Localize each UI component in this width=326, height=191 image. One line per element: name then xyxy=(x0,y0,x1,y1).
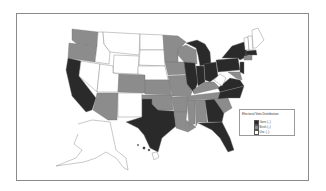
state-florida[interactable] xyxy=(198,122,234,152)
state-alabama[interactable] xyxy=(195,100,207,126)
state-alaska[interactable] xyxy=(56,120,128,170)
state-new-jersey[interactable] xyxy=(240,62,244,74)
state-massachusetts[interactable] xyxy=(246,50,257,55)
state-new-mexico[interactable] xyxy=(118,93,142,117)
state-arkansas[interactable] xyxy=(172,97,188,112)
state-south-dakota[interactable] xyxy=(139,50,165,66)
legend-label: Gore (..) xyxy=(260,120,271,124)
legend-row-bush: Bush (..) xyxy=(254,125,271,129)
state-colorado[interactable] xyxy=(118,74,145,93)
legend-label: Unc (..) xyxy=(260,130,270,134)
legend: Electoral Vote Distribution Gore (..) Bu… xyxy=(239,109,295,136)
state-kansas[interactable] xyxy=(145,80,171,95)
state-maine[interactable] xyxy=(252,28,264,48)
legend-title: Electoral Vote Distribution xyxy=(242,112,279,116)
legend-label: Bush (..) xyxy=(260,125,271,129)
state-washington[interactable] xyxy=(72,29,98,46)
state-connecticut[interactable] xyxy=(244,55,252,60)
state-north-dakota[interactable] xyxy=(140,34,164,50)
state-mississippi[interactable] xyxy=(187,100,195,125)
state-iowa[interactable] xyxy=(165,62,187,75)
legend-row-undecided: Unc (..) xyxy=(254,130,269,134)
state-wisconsin[interactable] xyxy=(178,45,197,64)
legend-row-gore: Gore (..) xyxy=(254,120,271,124)
us-electoral-map xyxy=(0,0,326,191)
state-pennsylvania[interactable] xyxy=(216,58,240,72)
state-arizona[interactable] xyxy=(93,93,118,120)
state-wyoming[interactable] xyxy=(113,55,139,74)
swatch-icon xyxy=(254,130,259,135)
